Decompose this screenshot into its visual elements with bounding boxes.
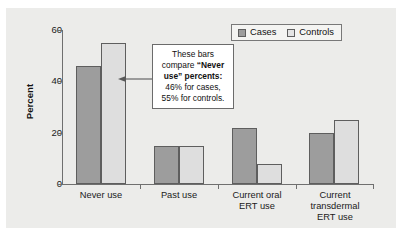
x-tick-separator-4 [373,184,374,189]
callout-arrow-icon [118,74,153,84]
bar-past-use-controls[interactable] [179,146,204,185]
bar-past-use-cases[interactable] [154,146,179,185]
callout-line-4: 46% for cases, [156,82,230,93]
x-category-label-current-transdermal-ert-use: Current transdermal ERT use [296,190,374,223]
callout-line-2: compare “Never [156,60,230,71]
figure: Percent 60 40 20 0 [0,0,404,240]
bar-never-use-controls[interactable] [101,43,126,184]
x-category-label-current-transdermal-ert-use-line2: ERT use [296,212,374,223]
x-category-label-past-use-line0: Past use [140,190,218,201]
y-tick-mark-60 [57,30,62,31]
plot-area: Percent 60 40 20 0 [0,0,404,240]
y-tick-mark-0 [57,184,62,185]
bar-never-use-cases[interactable] [76,66,101,184]
legend-label-cases: Cases [250,28,276,37]
callout-line-5: 55% for controls. [156,93,230,104]
bar-current-transdermal-ert-use-controls[interactable] [334,120,359,184]
x-category-label-never-use-line0: Never use [62,190,140,201]
callout-line-2-bold: “Never [197,60,224,70]
y-tick-mark-20 [57,133,62,134]
bar-current-oral-ert-use-controls[interactable] [257,164,282,185]
legend-label-controls: Controls [299,28,334,37]
y-tick-mark-40 [57,81,62,82]
never-use-callout: These bars compare “Never use” percents:… [152,44,234,109]
y-axis-line [62,30,63,185]
x-tick-separator-3 [296,184,297,189]
x-tick-separator-1 [140,184,141,189]
callout-line-1: These bars [156,49,230,60]
legend: Cases Controls [231,24,342,41]
legend-item-cases[interactable]: Cases [238,28,276,37]
bar-current-oral-ert-use-cases[interactable] [232,128,257,185]
x-category-label-current-transdermal-ert-use-line1: transdermal [296,201,374,212]
x-category-label-current-oral-ert-use: Current oral ERT use [218,190,296,212]
y-tick-40: 40 [0,76,62,86]
y-tick-60: 60 [0,25,62,35]
x-category-label-past-use: Past use [140,190,218,201]
x-tick-separator-2 [218,184,219,189]
callout-line-3: use” percents: [156,71,230,82]
legend-swatch-cases-icon [238,29,246,37]
callout-line-3-bold: use” percents: [164,71,223,81]
bar-current-transdermal-ert-use-cases[interactable] [309,133,334,184]
legend-item-controls[interactable]: Controls [287,28,334,37]
x-category-label-never-use: Never use [62,190,140,201]
callout-line-2-plain: compare [162,60,197,70]
y-tick-20: 20 [0,128,62,138]
y-tick-0: 0 [0,179,62,189]
x-category-label-current-transdermal-ert-use-line0: Current [296,190,374,201]
x-category-label-current-oral-ert-use-line0: Current oral [218,190,296,201]
legend-swatch-controls-icon [287,29,295,37]
x-category-label-current-oral-ert-use-line1: ERT use [218,201,296,212]
